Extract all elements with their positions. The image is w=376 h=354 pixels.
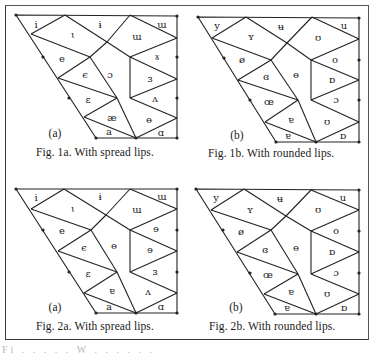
vowel-label: œ [264,96,274,107]
vowel-label: ʏ [247,204,254,215]
vowel-label: ʊ [324,288,330,299]
vowel-label: ʊ [324,116,330,127]
fig2a-diagram [14,187,178,314]
vowel-label: ø [239,54,245,65]
vowel-label: ʌ [144,286,151,297]
vowel-label: ɜ [152,266,157,277]
vowel-label: ɯ [157,19,167,30]
vowel-label: e [59,53,65,64]
fig2a-caption: Fig. 2a. With spread lips. [36,320,154,332]
vowel-label: ɐ [285,130,291,141]
vowel-label: ɤ [154,51,160,62]
fig1b-caption: Fig. 1b. With rounded lips. [208,147,334,159]
vowel-label: ɐ [288,286,294,297]
vowel-label: ɛ [85,94,90,105]
vowel-label: ɞ [262,244,268,255]
vowel-label: ɩ [71,29,75,40]
fig2b-labels: y ʉ u ʏ ʊ ø o ɞ ɵ ɒ œ ɔ ɐ ʊ ɐ ɒ (b) [212,192,348,314]
fig2a-labels: i ɨ ɯ ɩ ɯ e ɘ ϵ ɵ ɘ ɛ ɜ ɐ ʌ a ɑ (a) [34,191,167,314]
vowel-label: ʌ [151,93,158,104]
vowel-label: ɔ [333,267,339,278]
vowel-label: ɯ [132,31,142,42]
vowel-label: ɐ [288,114,294,125]
vowel-label: ʊ [315,204,321,215]
vowel-label: ø [238,226,244,237]
vowel-label: ɵ [111,240,117,251]
vowel-label: ɵ [146,114,152,125]
fig2b-caption: Fig. 2b. With rounded lips. [209,320,335,332]
fig1a-caption: Fig. 1a. With spread lips. [36,146,154,158]
panel-tag: (b) [230,129,244,142]
vowel-label: ɔ [333,94,339,105]
vowel-label: ɨ [98,19,101,30]
vowel-label: ɒ [340,130,347,141]
fig1b-labels: y ʉ u ʏ ʊ ø o ɞ ɵ ɒ œ ɔ ɐ ʊ ɐ ɒ (b) [213,20,348,142]
vowel-label: ɜ [147,73,152,84]
vowel-label: ɵ [293,69,299,80]
vowel-label: ʏ [248,31,255,42]
cropped-text-fragment: Fi . . . . . W . . . . . . [2,344,202,354]
panel-tag: (a) [49,127,62,140]
panel-tag: (a) [49,301,62,314]
vowel-label: ɨ [98,191,101,202]
fig2b-diagram [194,187,360,315]
vowel-label: ʉ [277,193,284,204]
vowel-label: ʉ [278,21,285,32]
vowel-label: e [59,225,65,236]
vowel-label: a [106,301,112,312]
vowel-label: ɑ [158,127,165,138]
vowel-label: ɘ [147,244,153,255]
vowel-label: ɒ [341,302,348,313]
vowel-label: ɛ [85,268,90,279]
vowel-label: y [213,20,220,31]
vowel-label: æ [107,112,116,123]
vowel-label: o [332,54,338,65]
vowel-label: u [341,20,348,31]
vowel-label: ɯ [132,204,142,215]
vowel-diagrams: i ɨ ɯ ɩ ɯ e ɤ ϵ ɔ ɜ ɛ ʌ æ ɵ a ɑ (a) y ʉ … [0,0,376,354]
vowel-label: ɩ [71,203,75,214]
fig1a-labels: i ɨ ɯ ɩ ɯ e ɤ ϵ ɔ ɜ ɛ ʌ æ ɵ a ɑ (a) [34,19,167,140]
vowel-label: ɞ [263,71,269,82]
vowel-label: ϵ [82,69,88,80]
vowel-label: ɐ [109,285,115,296]
fig1a-diagram [14,13,178,139]
vowel-label: ɒ [329,246,336,257]
vowel-label: o [333,225,339,236]
vowel-label: a [106,126,112,137]
vowel-label: ɵ [293,242,299,253]
panel-tag: (b) [229,301,243,314]
vowel-label: ϵ [81,242,87,253]
vowel-label: i [34,192,37,203]
vowel-label: ɘ [153,223,159,234]
fig1b-diagram [196,15,360,143]
vowel-label: ɐ [284,302,290,313]
vowel-label: i [34,19,37,30]
vowel-label: u [340,192,347,203]
vowel-label: ɯ [157,191,167,202]
vowel-label: y [212,192,219,203]
vowel-label: œ [263,269,273,280]
vowel-label: ɑ [158,301,165,312]
vowel-label: ʊ [315,32,321,43]
vowel-label: ɔ [107,69,113,80]
vowel-label: ɒ [329,74,336,85]
